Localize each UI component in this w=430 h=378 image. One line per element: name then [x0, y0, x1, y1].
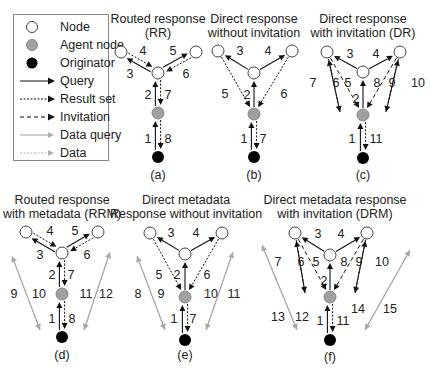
originator-c: [357, 152, 369, 164]
agent-node-a: [152, 107, 164, 119]
agent-node-f: [324, 291, 336, 303]
step-number-c-11: 11: [370, 132, 383, 146]
arrow-head: [258, 100, 264, 107]
arrow-d-8-result: [62, 301, 68, 329]
step-number-f-14: 14: [351, 302, 365, 316]
step-number-f-11: 11: [337, 314, 350, 328]
arrow-a-2-query: [152, 81, 158, 106]
arrow-line: [336, 240, 355, 251]
step-number-b-4: 4: [265, 44, 272, 58]
step-number-a-4: 4: [140, 44, 147, 58]
arrow-c-1-query: [357, 123, 363, 151]
arrow-head: [185, 326, 191, 332]
arrow-line: [260, 58, 280, 69]
agent-node-d: [56, 288, 68, 300]
step-number-d-11: 11: [80, 287, 93, 301]
step-number-d-9: 9: [11, 287, 18, 301]
step-number-f-13: 13: [271, 310, 285, 324]
arrow-a-8-result: [158, 120, 164, 149]
arrow-line: [75, 238, 93, 248]
node-a-center: [152, 67, 164, 79]
step-number-c-5: 5: [345, 76, 352, 90]
arrow-head: [70, 246, 77, 252]
step-number-c-6: 6: [333, 76, 340, 90]
step-number-a-3: 3: [127, 67, 134, 81]
step-number-e-2: 2: [174, 268, 181, 282]
step-number-c-4: 4: [373, 47, 380, 61]
arrow-line: [230, 58, 248, 69]
node-c-top-left: [321, 46, 333, 58]
step-number-c-3: 3: [347, 47, 354, 61]
step-number-f-1: 1: [317, 314, 324, 328]
arrow-f-2-query: [327, 263, 333, 290]
step-number-e-7: 7: [190, 312, 197, 326]
arrow-head: [50, 241, 57, 247]
arrow-head: [336, 106, 342, 112]
step-number-a-8: 8: [165, 132, 172, 146]
agent-node-c: [357, 109, 369, 121]
arrow-head: [152, 121, 158, 127]
step-number-e-9: 9: [158, 287, 165, 301]
step-number-d-7: 7: [68, 268, 75, 282]
arrow-head: [56, 261, 62, 267]
arrow-line: [307, 240, 324, 251]
step-number-a-2: 2: [145, 88, 152, 102]
node-d-top-right: [92, 226, 104, 238]
step-number-f-12: 12: [295, 310, 309, 324]
step-number-b-3: 3: [237, 44, 244, 58]
step-number-b-6: 6: [281, 87, 288, 101]
node-b-top-left: [212, 45, 224, 57]
arrow-head: [330, 326, 336, 332]
arrow-head: [146, 61, 153, 67]
step-number-a-6: 6: [183, 67, 190, 81]
step-number-c-10: 10: [411, 76, 425, 90]
step-number-e-4: 4: [193, 226, 200, 240]
arrow-head: [353, 287, 359, 293]
arrow-d-1-query: [56, 302, 62, 330]
arrow-line: [162, 240, 179, 250]
arrow-e-5-result: [153, 239, 181, 290]
node-f-top-right: [361, 227, 373, 239]
step-number-b-2: 2: [244, 88, 251, 102]
originator-f: [324, 334, 336, 346]
step-number-e-11: 11: [228, 287, 241, 301]
step-number-d-10: 10: [32, 287, 46, 301]
arrow-head: [182, 262, 188, 268]
step-number-d-12: 12: [99, 287, 113, 301]
step-number-f-10: 10: [375, 255, 389, 269]
arrow-head: [152, 81, 158, 87]
step-number-f-4: 4: [338, 227, 345, 241]
arrow-a-1-query: [152, 121, 158, 150]
arrow-head: [189, 283, 195, 290]
arrow-e-2-query: [182, 262, 188, 290]
node-a-top-left: [115, 46, 127, 58]
arrow-e-6-result: [189, 239, 218, 290]
step-number-b-1: 1: [241, 132, 248, 146]
arrow-head: [56, 302, 62, 308]
node-b-center: [248, 67, 260, 79]
node-f-center: [324, 249, 336, 261]
arrow-c-11-result: [363, 122, 369, 150]
arrow-head: [327, 263, 333, 269]
arrow-head: [158, 99, 164, 105]
arrow-head: [324, 305, 330, 311]
node-d-top-left: [20, 226, 32, 238]
step-number-e-6: 6: [204, 268, 211, 282]
diagram-canvas: 1827345617234561112345867910182734569101…: [0, 0, 430, 378]
step-number-b-5: 5: [222, 87, 229, 101]
node-c-center: [357, 66, 369, 78]
step-number-d-4: 4: [47, 224, 54, 238]
step-number-e-1: 1: [171, 312, 178, 326]
step-number-a-5: 5: [170, 44, 177, 58]
arrow-d-2-query: [56, 261, 62, 287]
step-number-c-7: 7: [310, 76, 317, 90]
arrow-head: [179, 305, 185, 311]
arrow-c-2-query: [360, 80, 366, 108]
step-number-d-5: 5: [72, 224, 79, 238]
step-number-d-3: 3: [37, 248, 44, 262]
agent-node-e: [179, 291, 191, 303]
step-number-b-7: 7: [260, 132, 267, 146]
step-number-a-1: 1: [145, 132, 152, 146]
originator-b: [248, 151, 260, 163]
arrow-head: [360, 80, 366, 86]
